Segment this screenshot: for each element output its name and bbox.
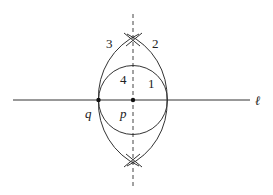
label-q: q — [85, 106, 92, 121]
label-arc-2: 2 — [152, 36, 159, 51]
label-line-l: ℓ — [255, 93, 261, 108]
label-arc-4: 4 — [120, 72, 127, 87]
label-arc-1: 1 — [148, 76, 155, 91]
construction-diagram: q p ℓ 3 2 4 1 — [0, 0, 273, 195]
label-p: p — [119, 106, 127, 121]
label-arc-3: 3 — [106, 36, 113, 51]
point-p — [131, 98, 135, 102]
point-q — [96, 98, 100, 102]
